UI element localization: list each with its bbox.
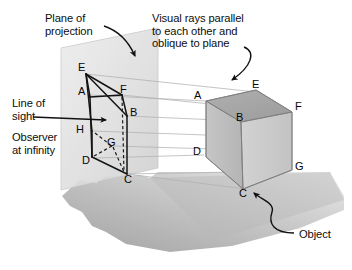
diagram-canvas: Plane of projection Visual rays parallel… <box>0 0 352 270</box>
object-vertex-F: F <box>295 101 302 112</box>
annotation-visual-rays: Visual rays parallel to each other and o… <box>152 12 244 50</box>
annotation-plane-of-projection: Plane of projection <box>45 12 93 37</box>
object-vertex-G: G <box>295 161 304 172</box>
object-vertex-D: D <box>193 146 201 157</box>
projected-vertex-A: A <box>78 86 85 97</box>
projected-vertex-F: F <box>120 84 127 95</box>
projected-vertex-B: B <box>130 107 137 118</box>
projected-vertex-C: C <box>124 174 132 185</box>
annotation-observer-at-infinity: Observer at infinity <box>12 131 57 156</box>
projected-vertex-D: D <box>82 155 90 166</box>
projected-vertex-E: E <box>78 62 85 73</box>
object-vertex-A: A <box>194 90 201 101</box>
annotation-object: Object <box>299 228 331 241</box>
object-vertex-E: E <box>252 79 259 90</box>
annotation-line-of-sight: Line of sight <box>12 97 45 122</box>
visual-rays-arrow <box>232 47 251 80</box>
object-vertex-C: C <box>239 188 247 199</box>
projected-vertex-H: H <box>76 124 84 135</box>
object-vertex-B: B <box>236 112 243 123</box>
projected-vertex-G: G <box>107 137 116 148</box>
